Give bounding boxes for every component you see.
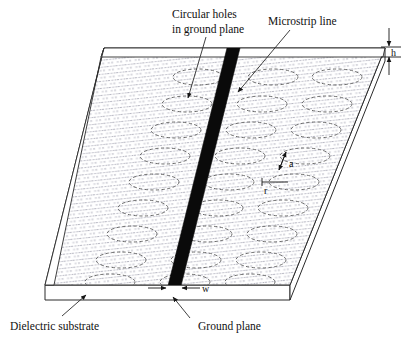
microstrip-holes-diagram: Circular holes in ground plane Microstri…: [0, 0, 409, 341]
board-back-margin: [101, 48, 385, 57]
substrate-front-face: [45, 285, 290, 300]
dimension-a-label: a: [289, 158, 294, 169]
circular-holes-label-line1: Circular holes: [172, 8, 237, 20]
ground-plane-label: Ground plane: [198, 320, 261, 333]
dimension-w-label: w: [202, 283, 210, 294]
circular-holes-label-line2: in ground plane: [172, 23, 244, 36]
ground-plane-top-face: [45, 48, 385, 285]
microstrip-line-label: Microstrip line: [268, 15, 337, 28]
dimension-h-label: h: [391, 47, 396, 58]
figure-root: Circular holes in ground plane Microstri…: [0, 0, 409, 341]
dielectric-substrate-label: Dielectric substrate: [10, 320, 99, 332]
